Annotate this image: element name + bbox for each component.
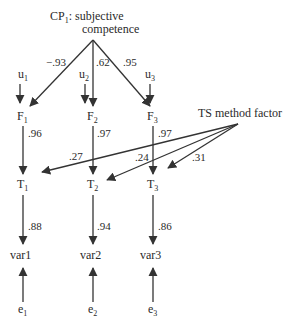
ts-method-factor-label: TS method factor [198,106,282,120]
f1-label: F1 [17,109,28,125]
method-t2-coef: .24 [135,151,149,163]
t3-label: T3 [147,177,158,193]
var1-label: var1 [10,248,31,262]
u1-label: u1 [18,67,28,83]
u3-label: u3 [145,67,155,83]
e2-label: e2 [88,302,97,318]
cp1-label-line2: competence [82,22,139,36]
var3-label: var3 [140,248,161,262]
method-t1-coef: .27 [69,150,83,162]
t3-var3-coef: .86 [158,220,172,232]
method-to-t1-arrow [42,124,238,172]
cp1-f1-coef: −.93 [46,56,66,68]
t2-label: T2 [87,177,98,193]
f3-label: F3 [147,109,158,125]
f2-label: F2 [87,109,98,125]
u2-label: u2 [79,67,89,83]
f2-t2-coef: .97 [97,127,111,139]
cp1-f2-coef: .62 [96,56,110,68]
method-to-t2-arrow [107,124,238,180]
cp1-f3-coef: .95 [123,56,137,68]
t1-var1-coef: .88 [28,220,42,232]
t2-var2-coef: .94 [97,220,111,232]
e3-label: e3 [148,302,157,318]
var2-label: var2 [80,248,101,262]
path-diagram: CP1: subjective competence −.93 .62 .95 … [0,0,290,327]
f1-t1-coef: .96 [28,127,42,139]
f3-t3-coef: .97 [158,127,172,139]
e1-label: e1 [18,302,27,318]
t1-label: T1 [17,177,28,193]
method-t3-coef: .31 [192,151,206,163]
cp1-to-f3-arrow [93,40,150,106]
